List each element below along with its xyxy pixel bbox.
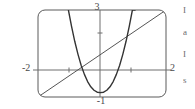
margin-text-line-2: a [183, 28, 195, 37]
plot-canvas [0, 0, 195, 109]
axis-label-x-max: 2 [170, 63, 175, 73]
margin-text-line-1: I [183, 6, 195, 15]
axis-label-y-min: -1 [97, 96, 105, 106]
margin-text-line-3: I [183, 50, 195, 59]
margin-text-line-4: s [183, 76, 195, 85]
axis-label-y-max: 3 [95, 2, 100, 12]
axis-label-x-min: -2 [22, 63, 30, 73]
